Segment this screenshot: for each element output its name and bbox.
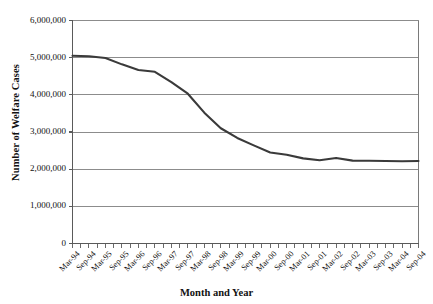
x-axis-tick-labels: Mar-94Sep-94Mar-95Sep-95Mar-96Sep-96Mar-…	[0, 0, 433, 304]
welfare-cases-line-chart: Number of Welfare Cases 01,000,0002,000,…	[0, 0, 433, 304]
x-axis-title: Month and Year	[0, 287, 433, 298]
